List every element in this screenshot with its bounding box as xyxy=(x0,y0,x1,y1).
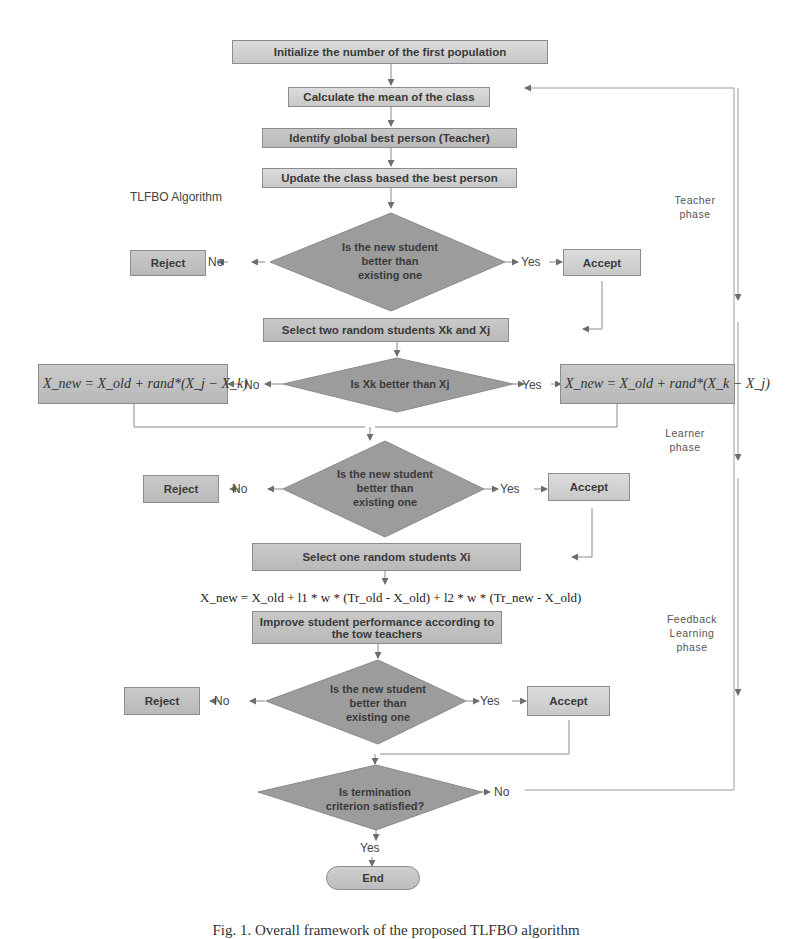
no-label-2: No xyxy=(232,482,247,496)
algorithm-title: TLFBO Algorithm xyxy=(130,190,222,204)
decision-text-line: better than xyxy=(315,481,455,495)
step-update-class: Update the class based the best person xyxy=(262,168,517,188)
figure-caption: Fig. 1. Overall framework of the propose… xyxy=(0,922,792,939)
decision-text-line: existing one xyxy=(308,710,448,724)
reject-box-3: Reject xyxy=(124,687,200,715)
phase-line: Learner xyxy=(650,426,720,440)
accept-box-1: Accept xyxy=(563,249,641,276)
decision-3-text: Is the new student better than existing … xyxy=(308,682,448,724)
phase-line: Feedback xyxy=(657,612,727,626)
decision-text-line: existing one xyxy=(320,268,460,282)
step-select-two: Select two random students Xk and Xj xyxy=(263,318,509,342)
yes-label-termination: Yes xyxy=(360,841,380,855)
step-mean: Calculate the mean of the class xyxy=(288,87,490,107)
phase-line: phase xyxy=(650,440,720,454)
accept-box-2: Accept xyxy=(548,473,630,501)
decision-text-line: better than xyxy=(308,696,448,710)
yes-label-xk: Yes xyxy=(522,378,542,392)
yes-label-2: Yes xyxy=(500,482,520,496)
yes-label-1: Yes xyxy=(521,255,541,269)
step-select-one: Select one random students Xi xyxy=(252,543,521,571)
no-label-1: No xyxy=(208,255,223,269)
decision-2-text: Is the new student better than existing … xyxy=(315,467,455,509)
phase-feedback: Feedback Learning phase xyxy=(657,612,727,654)
no-label-3: No xyxy=(214,694,229,708)
reject-box-2: Reject xyxy=(143,475,219,503)
no-label-termination: No xyxy=(494,785,509,799)
step-identify-teacher: Identify global best person (Teacher) xyxy=(262,128,517,148)
phase-learner: Learner phase xyxy=(650,426,720,454)
decision-xk-text: Is Xk better than Xj xyxy=(330,377,470,391)
step-init: Initialize the number of the first popul… xyxy=(232,40,548,64)
decision-termination-text: Is termination criterion satisfied? xyxy=(310,785,440,813)
phase-line: phase xyxy=(660,207,730,221)
phase-line: Learning xyxy=(657,626,727,640)
step-improve: Improve student performance according to… xyxy=(252,611,502,644)
decision-text-line: criterion satisfied? xyxy=(310,799,440,813)
formula-box-right: X_new = X_old + rand*(X_k − X_j) xyxy=(560,364,735,404)
formula-feedback: X_new = X_old + l1 * w * (Tr_old - X_old… xyxy=(200,590,581,606)
decision-text-line: existing one xyxy=(315,495,455,509)
decision-text-line: Is termination xyxy=(310,785,440,799)
no-label-xk: No xyxy=(244,378,259,392)
decision-text-line: Is the new student xyxy=(320,240,460,254)
decision-text-line: Is the new student xyxy=(315,467,455,481)
phase-teacher: Teacher phase xyxy=(660,193,730,221)
end-terminal: End xyxy=(326,866,420,890)
decision-1-text: Is the new student better than existing … xyxy=(320,240,460,282)
formula-box-left: X_new = X_old + rand*(X_j − X_k) xyxy=(38,364,228,404)
phase-line: phase xyxy=(657,640,727,654)
accept-box-3: Accept xyxy=(527,686,610,716)
phase-line: Teacher xyxy=(660,193,730,207)
decision-text-line: better than xyxy=(320,254,460,268)
reject-box-1: Reject xyxy=(130,250,206,276)
yes-label-3: Yes xyxy=(480,694,500,708)
decision-text-line: Is the new student xyxy=(308,682,448,696)
